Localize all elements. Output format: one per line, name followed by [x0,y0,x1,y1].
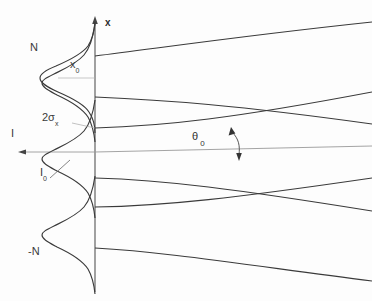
envelope-lower-outer [95,248,372,281]
intensity-arrow [18,149,95,154]
beam-optics-figure: x N x0 2σx I I0 -N θ0 [0,0,372,301]
propagation-axis [95,146,372,152]
envelope-upper-inner [95,97,372,124]
label-offset-subscript: 0 [76,67,80,74]
label-intensity: I [11,127,14,139]
figure-canvas [0,0,372,301]
label-intensity-peak: I0 [40,166,47,180]
label-offset: x0 [70,58,79,72]
vertical-axis [92,16,98,292]
envelope-lower-inner [95,178,372,207]
label-width-subscript: x [55,120,59,127]
label-angle: θ0 [192,130,203,145]
label-width: 2σx [42,111,58,125]
axis-label-x: x [105,17,111,28]
angle-indicator [229,127,242,161]
label-angle-subscript: 0 [200,139,204,148]
gaussian-lobe-lower [42,176,95,294]
label-peak-positive: N [30,41,38,53]
envelope-mid-upper [95,92,372,128]
envelope-upper-outer [95,22,372,56]
label-angle-text: θ [192,130,198,142]
label-intensity-peak-subscript: 0 [43,175,47,182]
label-offset-text: x [70,58,76,70]
label-width-text: 2σ [42,111,55,123]
label-peak-negative: -N [28,245,40,257]
